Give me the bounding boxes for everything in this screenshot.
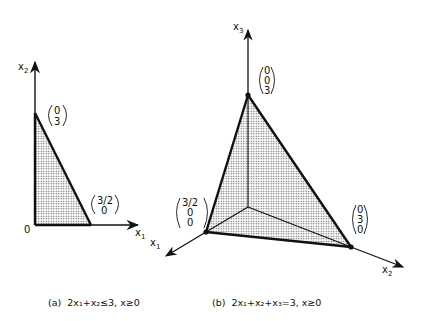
- vertex-dot-right: [348, 244, 353, 249]
- vertex-label-0-3: 0 3: [49, 105, 67, 127]
- x1-axis-3d: [166, 232, 206, 256]
- x3-axis-label: x3: [233, 21, 243, 35]
- svg-text:0: 0: [101, 205, 107, 216]
- svg-text:0: 0: [54, 105, 60, 116]
- caption-b: (b)2x₁+x₂+x₃=3, x≥0: [212, 297, 321, 308]
- figure-a: x2 x1 0 0 3 3/2 0: [18, 61, 145, 241]
- vertex-label-0-3-0: 0 3 0: [353, 204, 368, 235]
- feasible-region-3d: [206, 95, 351, 247]
- x2-axis-label: x2: [18, 61, 28, 75]
- svg-text:3: 3: [264, 85, 270, 96]
- svg-text:0: 0: [187, 217, 193, 228]
- vertex-dot-top: [245, 92, 250, 97]
- x1-axis-label-3d: x1: [150, 237, 160, 251]
- figure-b: x3 x1 x2 0 0 3 3/2 0 0 0 3 0: [150, 21, 403, 278]
- x2-axis-3d: [351, 247, 403, 267]
- vertex-label-3-2-0: 3/2 0: [92, 195, 119, 216]
- origin-label: 0: [24, 224, 30, 235]
- vertex-label-3-2-0-0: 3/2 0 0: [177, 197, 208, 228]
- svg-text:0: 0: [357, 224, 363, 235]
- x2-axis-label-3d: x2: [382, 264, 392, 278]
- caption-a: (a)2x₁+x₂≤3, x≥0: [48, 297, 140, 308]
- figure-canvas: x2 x1 0 0 3 3/2 0: [0, 0, 424, 321]
- svg-text:3: 3: [54, 116, 60, 127]
- vertex-label-0-0-3: 0 0 3: [260, 65, 275, 96]
- vertex-dot-left: [203, 229, 208, 234]
- x1-axis-label: x1: [135, 227, 145, 241]
